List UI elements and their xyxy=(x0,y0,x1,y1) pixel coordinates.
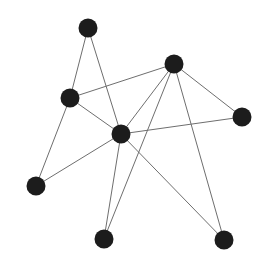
nodes-layer xyxy=(27,19,252,250)
graph-edge-n1-n5 xyxy=(88,28,121,134)
graph-node-n4 xyxy=(233,108,252,127)
graph-node-n7 xyxy=(95,230,114,249)
graph-edge-n3-n6 xyxy=(36,98,70,186)
graph-node-n2 xyxy=(165,55,184,74)
graph-node-n6 xyxy=(27,177,46,196)
network-graph xyxy=(0,0,278,264)
graph-edge-n2-n7 xyxy=(104,64,174,239)
graph-node-n8 xyxy=(215,231,234,250)
graph-edge-n1-n3 xyxy=(70,28,88,98)
graph-node-n1 xyxy=(79,19,98,38)
graph-node-n3 xyxy=(61,89,80,108)
graph-edge-n3-n2 xyxy=(70,64,174,98)
graph-edge-n2-n4 xyxy=(174,64,242,117)
graph-edge-n5-n6 xyxy=(36,134,121,186)
graph-edge-n5-n4 xyxy=(121,117,242,134)
graph-edge-n5-n7 xyxy=(104,134,121,239)
graph-edge-n2-n5 xyxy=(121,64,174,134)
edges-layer xyxy=(36,28,242,240)
graph-node-n5 xyxy=(112,125,131,144)
